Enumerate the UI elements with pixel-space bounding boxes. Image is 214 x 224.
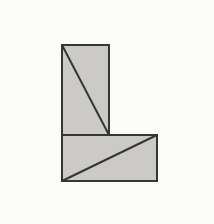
diagram-stage [0, 0, 214, 224]
l-shape-diagram [0, 0, 214, 224]
